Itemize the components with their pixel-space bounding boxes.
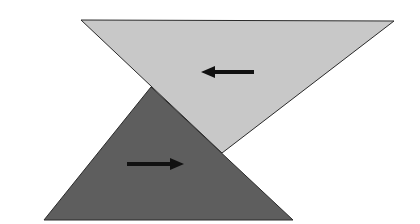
overlapping-triangles-diagram xyxy=(0,0,420,224)
